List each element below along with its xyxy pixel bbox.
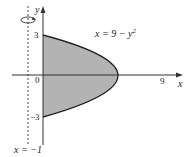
tick-label-3: 3 [34, 30, 39, 40]
x-axis-label: x [177, 78, 183, 89]
solid-of-revolution-diagram: y x 3 −3 0 9 x = 9 − y2 x = −1 [0, 0, 193, 157]
x-axis-arrow-icon [176, 73, 183, 78]
curve-equation-label: x = 9 − y2 [94, 27, 136, 39]
y-axis-label: y [34, 4, 40, 15]
tick-label-neg3: −3 [30, 112, 40, 122]
origin-label: 0 [35, 75, 40, 85]
rotation-arrow-icon [21, 17, 36, 23]
tick-label-9: 9 [160, 76, 165, 86]
y-axis-arrow-icon [41, 6, 46, 13]
axis-of-rotation-label: x = −1 [13, 144, 42, 155]
